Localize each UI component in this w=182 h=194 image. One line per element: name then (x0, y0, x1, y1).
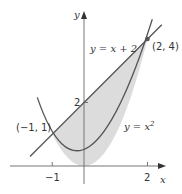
x-tick-label-neg1: −1 (45, 172, 60, 183)
x-axis-label: x (160, 174, 166, 185)
y-axis-arrow-icon (81, 11, 87, 19)
line-equation-label: y = x + 2 (89, 43, 137, 54)
parabola-equation-exponent: 2 (149, 120, 155, 128)
intersection-point-dot (145, 37, 150, 42)
area-between-curves-diagram: y x −1 2 2 y = x + 2 y = x2 (−1, 1) (2, … (0, 0, 182, 194)
y-tick-label-2: 2 (74, 97, 80, 108)
parabola-equation-base: y = x (123, 121, 150, 132)
point-label-2-4: (2, 4) (152, 41, 179, 52)
parabola-equation-label: y = x2 (123, 120, 155, 132)
x-tick-label-2: 2 (144, 172, 150, 183)
x-axis-arrow-icon (158, 163, 166, 169)
point-label-neg1-1: (−1, 1) (16, 122, 51, 133)
y-axis-label: y (73, 9, 80, 20)
